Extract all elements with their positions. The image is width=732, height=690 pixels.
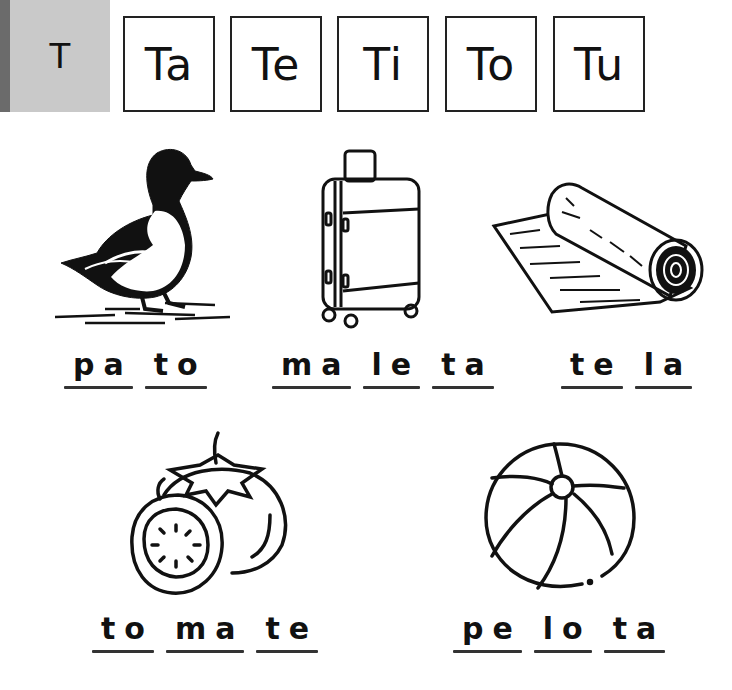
syllable-text: to bbox=[92, 612, 154, 646]
beach-ball-icon bbox=[478, 438, 643, 598]
syllable-underline bbox=[432, 386, 494, 389]
word-pato: pa to bbox=[64, 348, 207, 389]
syllable-box-te: Te bbox=[230, 16, 322, 112]
syllable-underline bbox=[145, 386, 207, 389]
syllable-underline bbox=[272, 386, 351, 389]
syllable-blank: ta bbox=[432, 348, 494, 389]
syllable-underline bbox=[561, 386, 623, 389]
word-tomate: to ma te bbox=[92, 612, 318, 653]
syllable-box-ti: Ti bbox=[337, 16, 429, 112]
syllable-blank: lo bbox=[534, 612, 592, 653]
syllable-text: la bbox=[635, 348, 693, 382]
syllable-underline bbox=[256, 650, 318, 653]
syllable-text: lo bbox=[534, 612, 592, 646]
syllable-box-ta: Ta bbox=[123, 16, 215, 112]
syllable-blank: pa bbox=[64, 348, 133, 389]
word-tela: te la bbox=[561, 348, 692, 389]
syllable-blank: le bbox=[363, 348, 421, 389]
syllable-blank: to bbox=[145, 348, 207, 389]
syllable-underline bbox=[92, 650, 154, 653]
syllable-underline bbox=[453, 650, 522, 653]
syllable-text: pa bbox=[64, 348, 133, 382]
syllable-underline bbox=[64, 386, 133, 389]
syllable-underline bbox=[604, 650, 666, 653]
syllable-box-to: To bbox=[445, 16, 537, 112]
syllable-blank: pe bbox=[453, 612, 522, 653]
syllable-text: ma bbox=[166, 612, 245, 646]
syllable-text: ta bbox=[432, 348, 494, 382]
syllable-text: ta bbox=[604, 612, 666, 646]
duck-icon bbox=[45, 145, 240, 330]
syllable-blank: ma bbox=[272, 348, 351, 389]
syllable-underline bbox=[363, 386, 421, 389]
syllable-box-tu: Tu bbox=[553, 16, 645, 112]
word-maleta: ma le ta bbox=[272, 348, 494, 389]
fabric-roll-icon bbox=[490, 178, 710, 318]
header-letter: T bbox=[10, 0, 110, 112]
syllable-blank: ma bbox=[166, 612, 245, 653]
syllable-blank: te bbox=[561, 348, 623, 389]
suitcase-icon bbox=[315, 145, 430, 330]
syllable-underline bbox=[635, 386, 693, 389]
syllable-blank: la bbox=[635, 348, 693, 389]
syllable-underline bbox=[166, 650, 245, 653]
syllable-text: te bbox=[561, 348, 623, 382]
syllable-underline bbox=[534, 650, 592, 653]
syllable-text: le bbox=[363, 348, 421, 382]
syllable-blank: te bbox=[256, 612, 318, 653]
tomato-icon bbox=[120, 425, 295, 605]
syllable-blank: to bbox=[92, 612, 154, 653]
syllable-text: ma bbox=[272, 348, 351, 382]
syllable-text: te bbox=[256, 612, 318, 646]
letter-header-block: T bbox=[0, 0, 110, 112]
header-accent-strip bbox=[0, 0, 10, 112]
word-pelota: pe lo ta bbox=[453, 612, 665, 653]
syllable-text: pe bbox=[453, 612, 522, 646]
syllable-blank: ta bbox=[604, 612, 666, 653]
syllable-text: to bbox=[145, 348, 207, 382]
